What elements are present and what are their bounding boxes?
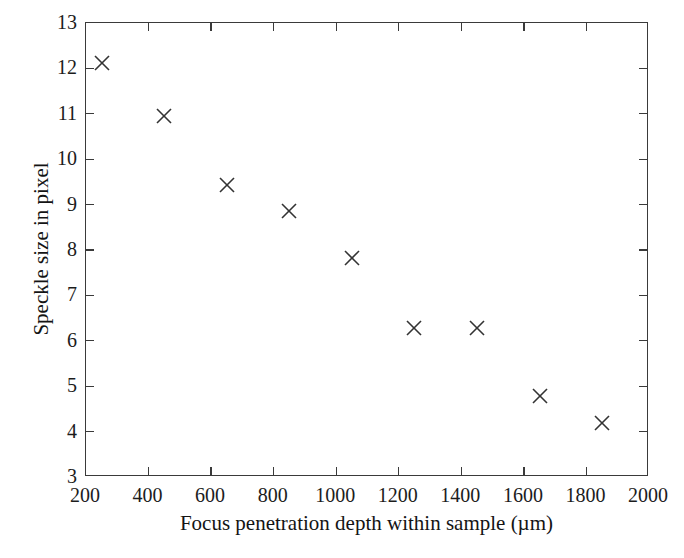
x-axis-tick-label: 1000	[315, 485, 355, 505]
x-axis-tick	[398, 467, 399, 475]
x-axis-tick-label: 1200	[378, 485, 418, 505]
y-axis-tick-right	[639, 295, 647, 296]
y-axis-tick	[86, 295, 94, 296]
data-point-marker	[406, 320, 423, 337]
y-axis-tick-label: 3	[37, 466, 77, 486]
y-axis-tick	[86, 249, 94, 250]
data-point-marker	[156, 107, 173, 124]
x-axis-tick	[336, 467, 337, 475]
x-axis-tick-top	[586, 23, 587, 31]
y-axis-tick-label: 8	[37, 239, 77, 259]
x-axis-tick-label: 2000	[628, 485, 668, 505]
y-axis-tick-label: 9	[37, 194, 77, 214]
data-point-marker	[468, 320, 485, 337]
data-point-marker	[93, 55, 110, 72]
y-axis-tick-right	[639, 159, 647, 160]
x-axis-tick-label: 1400	[440, 485, 480, 505]
x-axis-title: Focus penetration depth within sample (µ…	[85, 513, 648, 534]
x-axis-tick-label: 1600	[503, 485, 543, 505]
y-axis-tick-right	[639, 431, 647, 432]
x-axis-tick-label: 1800	[565, 485, 605, 505]
y-axis-tick-label: 10	[37, 148, 77, 168]
data-point-marker	[594, 414, 611, 431]
x-axis-tick	[273, 467, 274, 475]
y-axis-tick-right	[639, 113, 647, 114]
y-axis-tick-label: 13	[37, 12, 77, 32]
y-axis-tick-label: 5	[37, 375, 77, 395]
y-axis-tick	[86, 113, 94, 114]
y-axis-tick-right	[639, 68, 647, 69]
x-axis-tick-label: 800	[258, 485, 288, 505]
x-axis-tick	[461, 467, 462, 475]
x-axis-tick-top	[210, 23, 211, 31]
y-axis-tick	[86, 386, 94, 387]
x-axis-tick-top	[398, 23, 399, 31]
data-point-marker	[531, 388, 548, 405]
figure-scatter-plot: Focus penetration depth within sample (µ…	[0, 0, 684, 558]
y-axis-tick-label: 11	[37, 103, 77, 123]
data-point-marker	[343, 250, 360, 267]
x-axis-tick-top	[461, 23, 462, 31]
x-axis-tick-top	[336, 23, 337, 31]
x-axis-tick	[523, 467, 524, 475]
y-axis-tick-label: 6	[37, 330, 77, 350]
y-axis-tick-right	[639, 340, 647, 341]
y-axis-tick-label: 4	[37, 421, 77, 441]
plot-frame	[85, 22, 648, 476]
data-point-marker	[281, 203, 298, 220]
y-axis-tick-label: 12	[37, 57, 77, 77]
x-axis-tick	[210, 467, 211, 475]
y-axis-tick	[86, 431, 94, 432]
y-axis-tick	[86, 340, 94, 341]
data-point-marker	[218, 177, 235, 194]
x-axis-tick	[586, 467, 587, 475]
plot-area	[86, 23, 647, 475]
y-axis-tick-right	[639, 204, 647, 205]
x-axis-tick-top	[148, 23, 149, 31]
y-axis-tick-right	[639, 386, 647, 387]
x-axis-tick-top	[523, 23, 524, 31]
y-axis-tick-label: 7	[37, 284, 77, 304]
x-axis-tick-label: 400	[133, 485, 163, 505]
x-axis-tick	[148, 467, 149, 475]
y-axis-tick	[86, 204, 94, 205]
y-axis-tick-right	[639, 249, 647, 250]
x-axis-tick-label: 600	[195, 485, 225, 505]
x-axis-tick-label: 200	[70, 485, 100, 505]
y-axis-tick	[86, 159, 94, 160]
x-axis-tick-top	[273, 23, 274, 31]
